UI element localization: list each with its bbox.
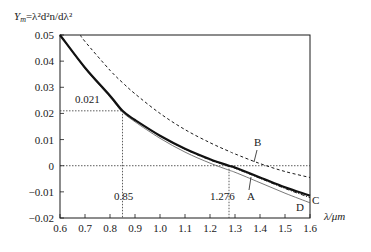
x-tick-label: 1.1 <box>178 222 192 234</box>
y-axis-title: Ym=λ²d²n/dλ² <box>14 10 73 24</box>
annotation-1276: 1.276 <box>210 190 235 202</box>
y-tick-label: 0.03 <box>35 81 55 93</box>
x-tick-label: 1.0 <box>153 222 167 234</box>
series <box>60 35 310 203</box>
annotation-0021: 0.021 <box>75 93 100 105</box>
x-axis-title: λ/μm <box>323 210 345 222</box>
curve-a <box>60 35 310 196</box>
y-tick-label: 0.02 <box>35 107 54 119</box>
label-a: A <box>247 190 255 202</box>
x-tick-label: 1.5 <box>278 222 292 234</box>
curve-b <box>80 35 310 178</box>
leader-b <box>254 150 257 162</box>
y-tick-label: 0 <box>49 160 55 172</box>
y-tick-label: 0.01 <box>35 134 54 146</box>
x-tick-label: 1.4 <box>253 222 267 234</box>
x-tick-label: 0.7 <box>78 222 92 234</box>
y-tick-label: 0.05 <box>35 29 55 41</box>
x-tick-label: 0.8 <box>103 222 117 234</box>
y-axis: 0.050.040.030.020.010−0.01−0.02 <box>29 29 64 224</box>
y-tick-label: 0.04 <box>35 55 55 67</box>
x-tick-label: 1.2 <box>203 222 217 234</box>
plot-frame <box>60 35 310 218</box>
x-axis: 0.60.70.80.91.01.11.21.31.41.51.6 <box>53 214 317 234</box>
x-tick-label: 0.9 <box>128 222 142 234</box>
curve-d <box>60 35 310 203</box>
label-b: B <box>254 136 261 148</box>
label-d: D <box>296 201 304 213</box>
x-tick-label: 0.6 <box>53 222 67 234</box>
guide-lines <box>60 111 310 218</box>
label-c: C <box>312 194 319 206</box>
x-tick-label: 1.6 <box>303 222 317 234</box>
chart: Ym=λ²d²n/dλ² 0.050.040.030.020.010−0.01−… <box>0 0 371 252</box>
y-tick-label: −0.01 <box>29 186 54 198</box>
annotation-085: 0.85 <box>114 190 134 202</box>
x-tick-label: 1.3 <box>228 222 242 234</box>
leader-a <box>249 177 251 190</box>
curve-c <box>60 35 310 198</box>
y-tick-label: −0.02 <box>29 212 54 224</box>
